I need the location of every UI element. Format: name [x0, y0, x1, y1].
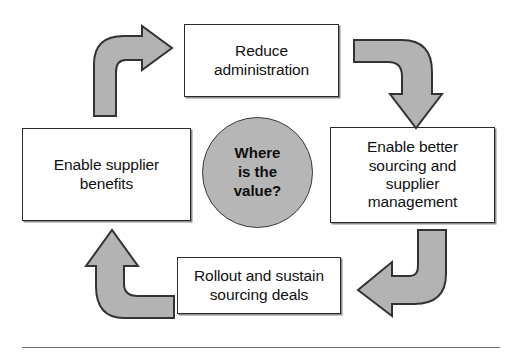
process-box-label: Enable better sourcing and supplier mana… — [367, 138, 458, 211]
process-box-enable-better-sourcing[interactable]: Enable better sourcing and supplier mana… — [330, 127, 495, 223]
process-box-rollout-and-sustain[interactable]: Rollout and sustain sourcing deals — [177, 257, 341, 314]
process-box-enable-supplier-benefits[interactable]: Enable supplier benefits — [22, 128, 191, 221]
process-box-label: Rollout and sustain sourcing deals — [194, 267, 324, 304]
curved-arrow-down-left-icon — [356, 228, 454, 322]
process-box-reduce-administration[interactable]: Reduce administration — [184, 24, 339, 97]
process-box-label: Reduce administration — [214, 42, 309, 79]
footer-divider — [22, 347, 500, 348]
curved-arrow-right-down-icon — [352, 32, 444, 130]
center-circle-where-is-the-value: Where is the value? — [202, 117, 313, 228]
curved-arrow-up-right-icon — [86, 26, 178, 118]
diagram-canvas: Reduce administration Enable better sour… — [0, 0, 522, 358]
center-circle-label: Where is the value? — [234, 144, 282, 200]
process-box-label: Enable supplier benefits — [54, 156, 159, 193]
curved-arrow-left-up-icon — [86, 226, 178, 322]
